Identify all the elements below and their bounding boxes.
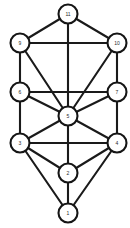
- graph-node-label-5: 5: [67, 113, 70, 119]
- graph-node-11[interactable]: 11: [59, 5, 78, 24]
- graph-node-3[interactable]: 3: [11, 134, 30, 153]
- graph-node-2[interactable]: 2: [59, 164, 78, 183]
- graph-node-label-9: 9: [19, 40, 22, 46]
- graph-node-1[interactable]: 1: [59, 204, 78, 223]
- node-graph-diagram: 119106753421: [0, 0, 130, 228]
- graph-node-label-4: 4: [116, 140, 119, 146]
- graph-node-label-10: 10: [114, 40, 120, 46]
- graph-node-label-7: 7: [116, 89, 119, 95]
- graph-node-9[interactable]: 9: [11, 34, 30, 53]
- graph-node-4[interactable]: 4: [108, 134, 127, 153]
- graph-canvas: 119106753421: [0, 0, 130, 228]
- graph-node-label-6: 6: [19, 89, 22, 95]
- graph-node-label-1: 1: [67, 210, 70, 216]
- graph-node-7[interactable]: 7: [108, 83, 127, 102]
- graph-node-10[interactable]: 10: [108, 34, 127, 53]
- graph-node-5[interactable]: 5: [59, 107, 78, 126]
- graph-node-6[interactable]: 6: [11, 83, 30, 102]
- graph-node-label-11: 11: [65, 11, 70, 17]
- graph-node-label-2: 2: [67, 170, 70, 176]
- graph-node-label-3: 3: [19, 140, 22, 146]
